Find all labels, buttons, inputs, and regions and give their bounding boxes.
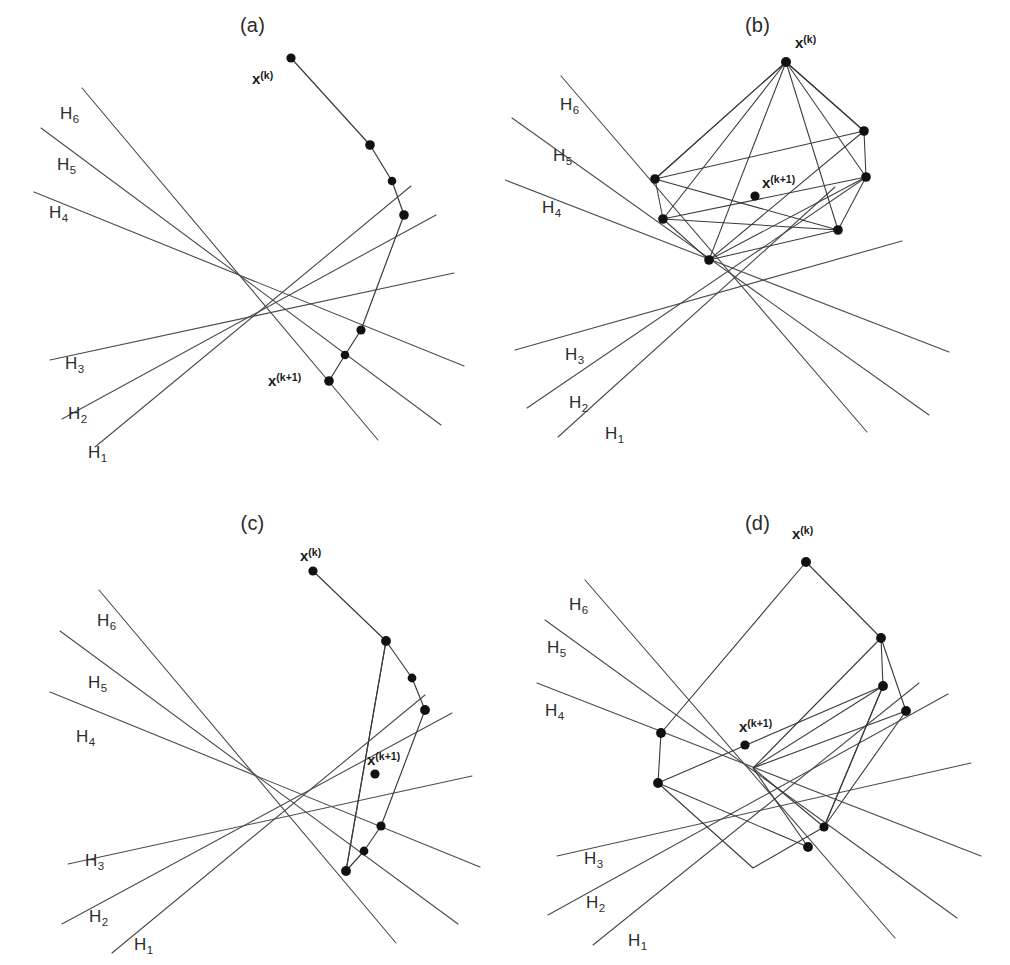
panel-c: (c) <box>0 483 505 965</box>
hyperplane-label-h3: H3 <box>584 849 603 869</box>
projection-dot-4 <box>819 822 828 831</box>
hyperplane-label-h1: H1 <box>134 935 153 955</box>
projection-dot-4 <box>704 255 714 265</box>
hyperplane-label-h6: H6 <box>560 95 579 115</box>
projection-ray-3 <box>709 62 786 260</box>
projection-dot-3 <box>901 706 911 716</box>
projection-dot-3 <box>399 210 409 220</box>
hyperplane-line-h6 <box>585 580 895 938</box>
iterate-xk1-dot <box>750 191 759 200</box>
hyperplane-label-h5: H5 <box>57 155 76 175</box>
iterate-xk1-dot <box>740 740 749 749</box>
hyperplane-label-h5: H5 <box>88 673 107 693</box>
projection-ray-2 <box>663 62 786 219</box>
iterate-xk-dot <box>801 557 811 567</box>
projection-ray-4 <box>786 62 838 230</box>
hyperplane-line-h3 <box>68 776 472 864</box>
polytope-hull-d <box>658 562 906 868</box>
projection-dot-6 <box>650 174 660 184</box>
projection-dots-b <box>650 57 871 265</box>
hyperplane-label-h3: H3 <box>85 851 104 871</box>
hyperplane-lines-a <box>34 88 464 447</box>
projection-dot-1 <box>876 633 886 643</box>
hull-chord-3 <box>709 131 864 260</box>
iterate-xk1-label: x(k+1) <box>268 372 301 389</box>
projection-dot-5 <box>341 351 350 360</box>
projection-dot-1 <box>365 140 375 150</box>
hyperplane-line-h4 <box>50 692 480 867</box>
iterate-xk-label: x(k) <box>795 34 816 51</box>
hyperplane-label-h4: H4 <box>49 203 68 223</box>
iterate-xk-label: x(k) <box>792 525 813 542</box>
hull-chord-1 <box>655 131 864 179</box>
hyperplane-label-h2: H2 <box>89 907 108 927</box>
hyperplane-label-h1: H1 <box>88 443 107 463</box>
projection-dot-7 <box>653 778 663 788</box>
iterate-xk-dot <box>308 566 317 575</box>
projection-dot-5 <box>658 214 668 224</box>
hyperplane-line-h5 <box>545 620 957 918</box>
hull-chord-3 <box>753 638 881 768</box>
projection-path-c <box>313 571 425 871</box>
hyperplane-line-h6 <box>82 88 378 440</box>
hyperplane-label-h1: H1 <box>605 424 624 444</box>
projection-dot-5 <box>803 842 813 852</box>
iterate-xk1-label: x(k+1) <box>739 718 772 735</box>
hyperplane-label-h3: H3 <box>65 354 84 374</box>
projection-dot-6 <box>656 728 666 738</box>
hyperplane-line-h5 <box>512 118 929 415</box>
projection-path-a <box>291 58 404 381</box>
iterate-xk1-label: x(k+1) <box>367 751 400 768</box>
projection-dot-1 <box>381 636 391 646</box>
hyperplane-label-h2: H2 <box>68 404 87 424</box>
hyperplane-label-h1: H1 <box>628 931 647 951</box>
hyperplane-label-h6: H6 <box>97 611 116 631</box>
hyperplane-label-h6: H6 <box>60 104 79 124</box>
projection-dot-4 <box>356 325 365 334</box>
projection-dot-4 <box>376 821 385 830</box>
panel-b: (b) <box>505 0 1010 482</box>
figure-root: (a) H6 H5 <box>0 0 1010 965</box>
hyperplane-line-h4 <box>34 192 464 366</box>
projection-dot-2 <box>408 674 417 683</box>
hyperplane-label-h2: H2 <box>586 893 605 913</box>
projection-dot-3 <box>833 225 843 235</box>
hyperplane-line-h3 <box>50 273 454 360</box>
panel-d: (d) <box>505 483 1010 965</box>
hyperplane-label-h3: H3 <box>565 345 584 365</box>
hyperplane-lines-c <box>50 590 480 953</box>
iterate-xk-dot <box>781 57 791 67</box>
hull-chord-5 <box>655 179 838 230</box>
panel-c-drawing <box>0 483 505 965</box>
hyperplane-line-h2 <box>62 713 452 924</box>
projection-dot-6 <box>341 866 351 876</box>
hyperplane-line-h6 <box>561 76 867 432</box>
upper-iteration-path <box>313 571 425 710</box>
iterate-xk-label: x(k) <box>300 547 321 564</box>
projection-dot-5 <box>360 847 369 856</box>
hyperplane-label-h4: H4 <box>545 701 564 721</box>
hyperplane-label-h5: H5 <box>553 146 572 166</box>
iterate-xk1-dot <box>370 769 379 778</box>
hyperplane-label-h4: H4 <box>76 727 95 747</box>
hyperplane-line-h4 <box>537 683 981 856</box>
projection-dot-1 <box>859 126 869 136</box>
convex-hull-polygon <box>658 562 883 868</box>
projection-dot-2 <box>878 681 888 691</box>
projection-dot-3 <box>420 705 430 715</box>
iterate-xk1-label: x(k+1) <box>762 174 795 191</box>
hyperplane-line-h5 <box>60 631 458 924</box>
hyperplane-lines-b <box>505 76 949 437</box>
iteration-path <box>291 58 404 381</box>
projection-dot-2 <box>388 177 397 186</box>
hyperplane-label-h6: H6 <box>569 595 588 615</box>
hyperplane-label-h2: H2 <box>569 393 588 413</box>
hull-chord-9 <box>881 638 906 711</box>
projection-ray-5 <box>786 62 866 177</box>
iterate-xk-label: x(k) <box>252 70 273 87</box>
hyperplane-label-h5: H5 <box>547 638 566 658</box>
projection-dots-c <box>308 566 430 876</box>
hyperplane-line-h1 <box>558 187 835 437</box>
hyperplane-label-h4: H4 <box>542 198 561 218</box>
iterate-xk-dot <box>286 53 295 62</box>
